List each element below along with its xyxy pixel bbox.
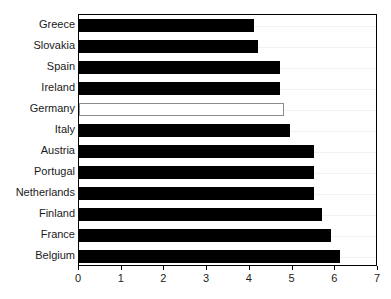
plot-area [79, 15, 376, 265]
category-label: Greece [0, 19, 75, 30]
bar[interactable] [79, 82, 280, 95]
bar-chart: GreeceSlovakiaSpainIrelandGermanyItalyAu… [0, 0, 391, 299]
bar[interactable] [79, 19, 254, 32]
category-label: Netherlands [0, 187, 75, 198]
bar-row [79, 225, 378, 246]
bar[interactable] [79, 40, 258, 53]
x-tick-mark [334, 266, 335, 270]
bar[interactable] [79, 61, 280, 74]
category-label: Italy [0, 124, 75, 135]
x-tick-mark [206, 266, 207, 270]
bar-highlighted[interactable] [79, 103, 284, 116]
x-tick-mark [163, 266, 164, 270]
bar[interactable] [79, 187, 314, 200]
bar[interactable] [79, 250, 340, 263]
bar-row [79, 141, 378, 162]
bar-row [79, 183, 378, 204]
x-tick-label: 6 [319, 272, 349, 284]
category-label: Austria [0, 145, 75, 156]
bar[interactable] [79, 166, 314, 179]
category-label: Spain [0, 61, 75, 72]
x-tick-label: 2 [148, 272, 178, 284]
bar[interactable] [79, 145, 314, 158]
bar-row [79, 246, 378, 267]
x-tick-mark [377, 266, 378, 270]
category-label: Slovakia [0, 40, 75, 51]
plot-frame [78, 14, 377, 266]
category-label: Germany [0, 103, 75, 114]
bar-row [79, 15, 378, 36]
bar-row [79, 36, 378, 57]
x-tick-label: 5 [277, 272, 307, 284]
category-label: Belgium [0, 250, 75, 261]
bar-row [79, 162, 378, 183]
bar-row [79, 57, 378, 78]
bar[interactable] [79, 124, 290, 137]
bar[interactable] [79, 229, 331, 242]
x-tick-label: 4 [234, 272, 264, 284]
category-label: Finland [0, 208, 75, 219]
bar-row [79, 78, 378, 99]
x-tick-mark [78, 266, 79, 270]
x-tick-mark [121, 266, 122, 270]
bar-row [79, 99, 378, 120]
x-tick-mark [292, 266, 293, 270]
bar-row [79, 120, 378, 141]
x-tick-label: 0 [63, 272, 93, 284]
bar[interactable] [79, 208, 322, 221]
x-tick-label: 7 [362, 272, 391, 284]
bar-row [79, 204, 378, 225]
category-label: Ireland [0, 82, 75, 93]
x-tick-mark [249, 266, 250, 270]
x-tick-label: 1 [106, 272, 136, 284]
category-label: France [0, 229, 75, 240]
category-label: Portugal [0, 166, 75, 177]
x-tick-label: 3 [191, 272, 221, 284]
